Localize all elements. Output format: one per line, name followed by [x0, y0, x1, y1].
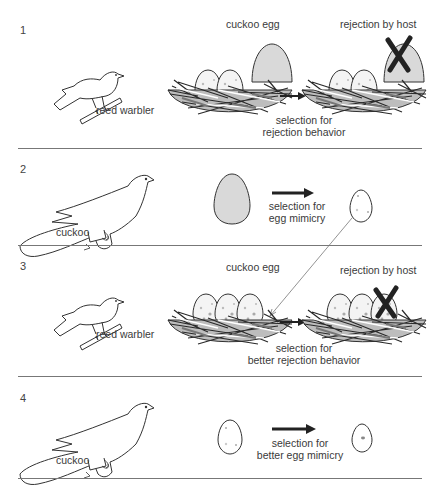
arrow-icon: [272, 424, 316, 434]
cuckoo-illustration: [18, 400, 158, 486]
selection-line-2: better egg mimicry: [250, 449, 350, 461]
divider: [18, 245, 422, 246]
mimic-egg-icon: [216, 418, 244, 456]
divider: [18, 478, 422, 479]
cuckoo-egg-label: cuckoo egg: [226, 261, 280, 273]
nest-with-rejected-egg: [300, 284, 430, 354]
reed-warbler-illustration: [52, 290, 132, 360]
divider: [18, 376, 422, 377]
reed-warbler-label: reed warbler: [96, 328, 154, 340]
selection-line-2: better rejection behavior: [234, 354, 374, 366]
better-mimic-egg-icon: [350, 422, 374, 454]
cuckoo-label: cuckoo: [56, 454, 89, 466]
selection-label: selection for better egg mimicry: [250, 437, 350, 461]
panel-number: 3: [20, 260, 26, 272]
rejection-label: rejection by host: [340, 264, 416, 276]
selection-line-1: selection for: [250, 437, 350, 449]
